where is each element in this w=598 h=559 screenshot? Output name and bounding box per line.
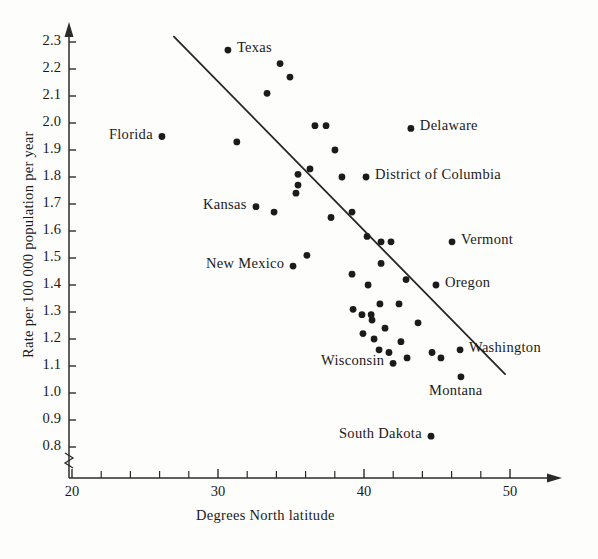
data-point	[386, 349, 393, 356]
data-point	[388, 238, 395, 245]
data-point	[271, 209, 278, 216]
scatter-plot-figure: 0.80.91.01.11.21.31.41.51.61.71.81.92.02…	[0, 0, 598, 559]
y-tick-label: 2.0	[17, 113, 61, 130]
data-point	[295, 171, 302, 178]
data-point-labeled	[390, 360, 397, 367]
data-point	[415, 319, 422, 326]
data-point	[403, 276, 410, 283]
point-label-oregon: Oregon	[445, 274, 490, 291]
point-label-florida: Florida	[109, 126, 153, 143]
x-tick-label: 50	[490, 483, 530, 500]
data-point	[293, 190, 300, 197]
point-label-new-mexico: New Mexico	[206, 255, 284, 272]
data-point	[233, 139, 240, 146]
y-tick-label: 2.3	[17, 32, 61, 49]
y-tick-label: 0.9	[17, 410, 61, 427]
data-point-labeled	[225, 47, 232, 54]
data-points-group	[159, 47, 465, 440]
data-point	[396, 301, 403, 308]
y-axis-break-marker	[65, 453, 73, 468]
point-label-washington: Washington	[469, 339, 541, 356]
x-axis-title: Degrees North latitude	[196, 507, 335, 524]
data-point	[382, 325, 389, 332]
y-tick-label: 1.1	[17, 356, 61, 373]
data-point-labeled	[363, 174, 370, 181]
data-point	[369, 317, 376, 324]
y-tick-label: 1.0	[17, 383, 61, 400]
data-point-labeled	[290, 263, 297, 270]
data-point-labeled	[159, 133, 166, 140]
data-point	[349, 209, 356, 216]
data-point	[332, 147, 339, 154]
plot-canvas	[0, 0, 598, 559]
data-point	[350, 306, 357, 313]
point-label-texas: Texas	[237, 39, 272, 56]
data-point	[377, 301, 384, 308]
point-label-delaware: Delaware	[420, 117, 478, 134]
data-point	[365, 282, 372, 289]
point-label-vermont: Vermont	[461, 231, 513, 248]
data-point-labeled	[457, 346, 464, 353]
x-axis-arrowhead	[547, 474, 562, 483]
data-point-labeled	[449, 238, 456, 245]
axes-group	[65, 22, 563, 483]
data-point	[312, 122, 319, 129]
x-tick-label: 40	[344, 483, 384, 500]
data-point	[360, 330, 367, 337]
point-label-south-dakota: South Dakota	[339, 425, 422, 442]
data-point	[307, 166, 314, 173]
data-point-labeled	[433, 282, 440, 289]
x-tick-label: 20	[52, 483, 92, 500]
data-point	[429, 349, 436, 356]
data-point-labeled	[407, 125, 414, 132]
x-tick-label: 30	[198, 483, 238, 500]
point-label-montana: Montana	[429, 382, 483, 399]
point-label-kansas: Kansas	[203, 196, 247, 213]
data-point	[398, 338, 405, 345]
data-point	[287, 74, 294, 81]
data-point	[295, 182, 302, 189]
data-point-labeled	[253, 203, 260, 210]
data-point	[328, 214, 335, 221]
data-point	[364, 233, 371, 240]
data-point-labeled	[428, 433, 435, 440]
data-point	[378, 238, 385, 245]
data-point	[277, 60, 284, 67]
data-point	[404, 355, 411, 362]
y-axis-title: Rate per 100 000 population per year	[20, 131, 37, 358]
y-tick-label: 2.1	[17, 86, 61, 103]
data-point	[349, 271, 356, 278]
data-point	[359, 311, 366, 318]
data-point	[304, 252, 311, 259]
data-point	[438, 355, 445, 362]
data-point	[378, 260, 385, 267]
data-point	[264, 90, 271, 97]
y-tick-label: 2.2	[17, 59, 61, 76]
y-tick-label: 0.8	[17, 437, 61, 454]
data-point	[339, 174, 346, 181]
data-point-labeled	[458, 373, 465, 380]
data-point	[371, 336, 378, 343]
point-label-district-of-columbia: District of Columbia	[375, 166, 501, 183]
point-label-wisconsin: Wisconsin	[321, 352, 384, 369]
y-axis-arrowhead	[65, 22, 74, 37]
data-point	[323, 122, 330, 129]
